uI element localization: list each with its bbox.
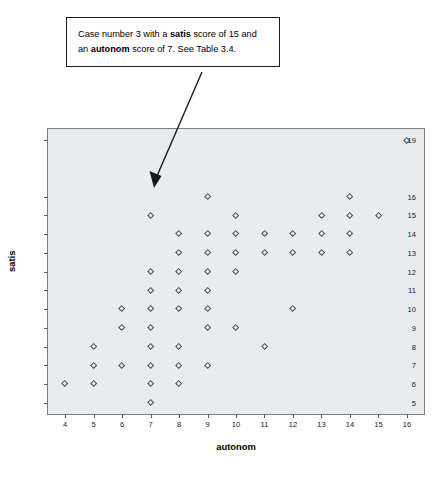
annotation-line-2: an autonom score of 7. See Table 3.4. xyxy=(78,42,269,57)
annotation-line-1: Case number 3 with a satis score of 15 a… xyxy=(78,27,269,42)
annotation-line-2-text-c: score of 7. See Table 3.4. xyxy=(130,44,237,54)
x-axis-tick-label: 9 xyxy=(205,420,209,429)
x-axis-tick xyxy=(122,414,123,418)
x-axis-tick xyxy=(65,414,66,418)
x-axis-tick-label: 12 xyxy=(289,420,297,429)
scatter-point xyxy=(317,211,326,220)
x-axis-tick-label: 15 xyxy=(374,420,382,429)
scatter-point xyxy=(260,230,269,239)
x-axis-tick xyxy=(179,414,180,418)
annotation-term-satis: satis xyxy=(170,29,191,39)
scatter-point xyxy=(232,211,241,220)
scatter-point xyxy=(118,305,127,314)
x-axis-tick-label: 14 xyxy=(346,420,354,429)
scatter-point xyxy=(175,248,184,257)
x-axis-tick-label: 7 xyxy=(148,420,152,429)
annotation-callout: Case number 3 with a satis score of 15 a… xyxy=(66,17,280,67)
scatter-point xyxy=(345,211,354,220)
scatter-point xyxy=(175,380,184,389)
scatter-point xyxy=(89,380,98,389)
x-axis-tick xyxy=(378,414,379,418)
scatter-point xyxy=(146,211,155,220)
x-axis-tick xyxy=(208,414,209,418)
x-axis-tick xyxy=(236,414,237,418)
x-axis-tick-label: 5 xyxy=(91,420,95,429)
scatter-point xyxy=(146,286,155,295)
x-axis-tick xyxy=(264,414,265,418)
x-axis-tick xyxy=(94,414,95,418)
scatter-point xyxy=(146,342,155,351)
x-axis-tick xyxy=(350,414,351,418)
x-axis-tick-label: 4 xyxy=(63,420,67,429)
scatter-point xyxy=(232,267,241,276)
x-axis-tick-label: 16 xyxy=(403,420,411,429)
x-axis-tick-label: 6 xyxy=(120,420,124,429)
scatter-point xyxy=(345,192,354,201)
scatter-point xyxy=(175,305,184,314)
scatter-plot-frame: 567891011121314151619 456789101112131415… xyxy=(47,128,425,415)
scatter-point xyxy=(175,267,184,276)
scatter-point xyxy=(146,361,155,370)
scatter-point xyxy=(89,342,98,351)
x-axis-tick xyxy=(293,414,294,418)
x-axis-tick-label: 10 xyxy=(232,420,240,429)
y-axis-title: satis xyxy=(6,251,17,272)
scatter-point xyxy=(118,361,127,370)
annotation-line-1-text-a: Case number 3 with a xyxy=(78,29,170,39)
scatter-point xyxy=(288,305,297,314)
annotation-line-1-text-c: score of 15 and xyxy=(191,29,257,39)
scatter-point xyxy=(288,248,297,257)
scatter-point xyxy=(203,323,212,332)
scatter-point xyxy=(288,230,297,239)
scatter-point xyxy=(232,248,241,257)
x-axis-tick xyxy=(407,414,408,418)
scatter-point xyxy=(232,230,241,239)
scatter-point xyxy=(146,398,155,407)
scatter-point xyxy=(232,323,241,332)
scatter-point xyxy=(374,211,383,220)
scatter-point xyxy=(146,380,155,389)
x-axis-title: autonom xyxy=(47,441,425,452)
scatter-point xyxy=(175,361,184,370)
scatter-point xyxy=(260,248,269,257)
scatter-point xyxy=(61,380,70,389)
plot-area xyxy=(48,129,424,414)
scatter-point xyxy=(146,267,155,276)
scatter-point xyxy=(345,230,354,239)
scatter-point xyxy=(317,248,326,257)
scatter-point xyxy=(146,305,155,314)
scatter-point xyxy=(203,248,212,257)
scatter-point xyxy=(146,323,155,332)
scatter-point xyxy=(175,230,184,239)
x-axis-tick-label: 13 xyxy=(317,420,325,429)
x-axis-tick-label: 11 xyxy=(261,420,269,429)
scatter-point xyxy=(203,267,212,276)
scatter-point xyxy=(203,230,212,239)
annotation-arrow-icon xyxy=(140,72,210,197)
scatter-point xyxy=(402,136,411,145)
x-axis-tick xyxy=(151,414,152,418)
scatter-point xyxy=(203,286,212,295)
scatter-point xyxy=(260,342,269,351)
x-axis-tick xyxy=(321,414,322,418)
scatter-point xyxy=(175,342,184,351)
scatter-point xyxy=(317,230,326,239)
scatter-point xyxy=(203,305,212,314)
scatter-point xyxy=(175,286,184,295)
annotation-term-autonom: autonom xyxy=(91,44,130,54)
scatter-point xyxy=(345,248,354,257)
x-axis-tick-label: 8 xyxy=(177,420,181,429)
scatter-point xyxy=(118,323,127,332)
scatter-point xyxy=(89,361,98,370)
annotation-line-2-text-a: an xyxy=(78,44,91,54)
scatter-point xyxy=(203,361,212,370)
